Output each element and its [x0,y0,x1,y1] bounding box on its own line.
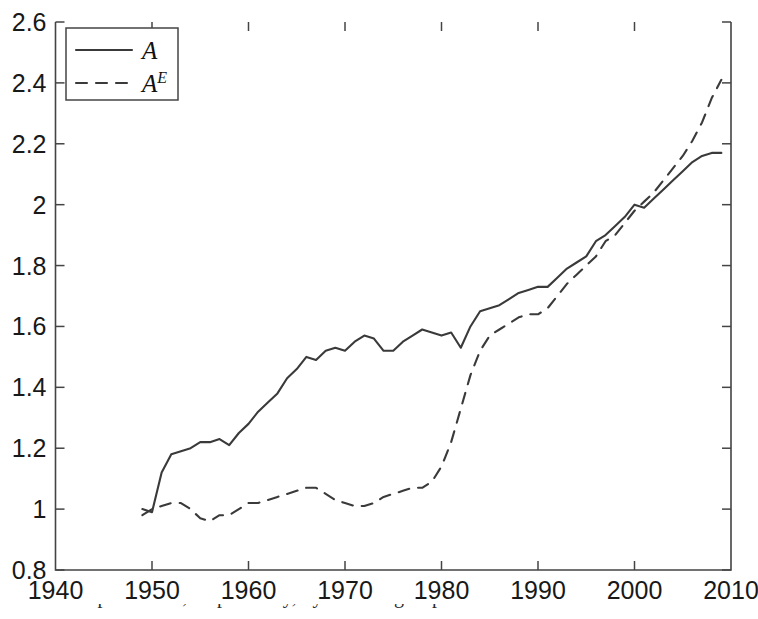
line-chart: 0.811.21.41.61.822.22.42.619401950196019… [0,0,758,619]
caption-strip: and capital/labor, respectively, by inco… [0,604,758,619]
y-axis-tick-label: 2.2 [12,130,47,158]
x-axis-tick-label: 2000 [607,576,663,604]
y-axis-tick-label: 2.4 [12,69,47,97]
series-line-A [142,153,721,512]
x-axis-tick-label: 1970 [317,576,373,604]
y-axis-tick-label: 1.6 [12,312,47,340]
y-axis-tick-label: 1.4 [12,373,47,401]
legend-box [66,28,178,100]
x-axis-tick-label: 1940 [28,576,84,604]
series-group [142,80,721,521]
x-axis-tick-label: 1960 [221,576,277,604]
figure-caption: and capital/labor, respectively, by inco… [44,604,448,608]
x-axis-tick-label: 1980 [414,576,470,604]
y-axis-tick-label: 1.2 [12,434,47,462]
y-axis-tick-label: 2 [33,191,47,219]
y-axis-tick-label: 1.8 [12,252,47,280]
y-axis-tick-label: 1 [33,495,47,523]
series-line-A-E [142,80,721,521]
legend-label-A: A [140,37,158,64]
x-axis-tick-label: 1990 [510,576,566,604]
legend-superscript: E [156,69,167,86]
chart-figure: 0.811.21.41.61.822.22.42.619401950196019… [0,0,758,619]
x-axis-tick-label: 2010 [703,576,758,604]
axis-ticks-group [56,22,732,570]
axis-frame [56,22,732,570]
chart-legend: AAE [66,28,178,100]
x-axis-tick-label: 1950 [124,576,180,604]
y-axis-tick-label: 2.6 [12,8,47,36]
